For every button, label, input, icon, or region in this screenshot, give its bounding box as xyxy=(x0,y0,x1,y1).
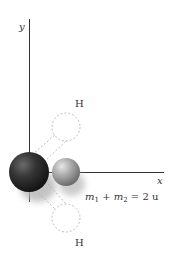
ghost-atom-top xyxy=(32,113,80,162)
ghost-top-label: H xyxy=(75,98,84,109)
ghost-bottom-label: H xyxy=(75,237,84,248)
heavy-atom xyxy=(9,152,49,192)
molecule-diagram: y x H H m1 + m2 = 2 u xyxy=(0,0,181,259)
light-atom xyxy=(52,158,80,186)
mass-equation: m1 + m2 = 2 u xyxy=(85,191,159,204)
y-axis-label: y xyxy=(18,21,25,32)
x-axis-label: x xyxy=(157,175,163,186)
